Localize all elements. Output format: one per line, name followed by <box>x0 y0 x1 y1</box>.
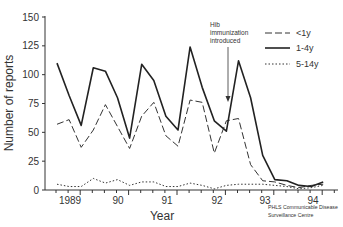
credit-line: Surveillance Centre <box>268 212 313 218</box>
x-tick-label: 91 <box>161 195 173 206</box>
credit-line: PHLS Communicable Disease <box>268 204 338 210</box>
y-tick-label: 100 <box>22 69 39 80</box>
series-dashed-line <box>57 100 323 188</box>
series-lines <box>57 47 323 189</box>
svg-text:introduced: introduced <box>210 37 241 44</box>
x-axis-label: Year <box>150 209 174 223</box>
y-tick-label: 50 <box>28 127 40 138</box>
x-tick-label: 92 <box>211 195 223 206</box>
y-axis-label: Number of reports <box>2 55 16 152</box>
svg-text:immunization: immunization <box>210 29 249 36</box>
y-tick-label: 150 <box>22 12 39 23</box>
y-ticks: 0255075100125150 <box>22 12 45 196</box>
x-tick-label: 1989 <box>59 195 82 206</box>
legend: <1y 1-4y 5-14y <box>265 28 319 69</box>
legend-label: <1y <box>296 28 311 38</box>
svg-text:Hib: Hib <box>210 21 220 28</box>
y-tick-label: 125 <box>22 40 39 51</box>
y-tick-label: 25 <box>28 156 40 167</box>
x-tick-label: 90 <box>112 195 124 206</box>
hib-annotation: Hib immunization introduced <box>210 21 249 102</box>
series-solid-line <box>57 47 323 187</box>
y-tick-label: 75 <box>28 98 40 109</box>
y-tick-label: 0 <box>33 185 39 196</box>
legend-label: 5-14y <box>296 59 319 69</box>
legend-label: 1-4y <box>296 43 314 53</box>
arrow-head-icon <box>226 96 231 102</box>
chart: 0255075100125150 19899091929394 Number o… <box>0 0 343 227</box>
